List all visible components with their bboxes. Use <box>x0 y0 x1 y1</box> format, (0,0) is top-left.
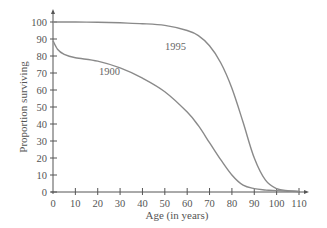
y-tick-label: 90 <box>37 34 48 45</box>
y-tick-label: 10 <box>37 170 48 181</box>
x-tick-label: 110 <box>291 198 306 209</box>
series-label-1995: 1995 <box>165 41 186 52</box>
x-tick-label: 70 <box>204 198 215 209</box>
y-tick-label: 30 <box>37 136 48 147</box>
y-tick-label: 40 <box>37 119 48 130</box>
x-tick-label: 80 <box>227 198 238 209</box>
y-tick-label: 50 <box>37 102 48 113</box>
x-tick-label: 10 <box>70 198 81 209</box>
survival-chart: 0102030405060708090100 01020304050607080… <box>0 0 327 228</box>
y-axis-arrow-icon <box>51 9 55 14</box>
y-tick-label: 60 <box>37 85 48 96</box>
y-axis-title: Proportion surviving <box>17 61 29 153</box>
x-axis-arrow-icon <box>304 190 309 194</box>
x-tick-label: 90 <box>249 198 260 209</box>
x-tick-label: 50 <box>160 198 171 209</box>
x-tick-label: 40 <box>137 198 148 209</box>
x-tick-label: 20 <box>92 198 103 209</box>
y-tick-label: 20 <box>37 153 48 164</box>
y-tick-label: 70 <box>37 68 48 79</box>
x-tick-label: 60 <box>182 198 193 209</box>
y-tick-label: 80 <box>37 51 48 62</box>
x-tick-label: 100 <box>269 198 285 209</box>
x-tick-label: 30 <box>115 198 126 209</box>
x-axis-title: Age (in years) <box>146 209 209 222</box>
series-line-1900 <box>53 41 299 192</box>
x-axis-ticks: 0102030405060708090100110 <box>50 188 306 209</box>
y-tick-label: 0 <box>42 187 47 198</box>
series-label-1900: 1900 <box>99 66 120 77</box>
y-tick-label: 100 <box>31 17 47 28</box>
x-tick-label: 0 <box>50 198 55 209</box>
